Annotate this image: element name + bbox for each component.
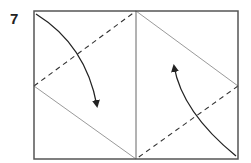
left-fold-arrow-icon (36, 14, 97, 106)
valley-fold-right (136, 86, 238, 159)
valley-fold-left (34, 11, 136, 86)
right-fold-arrow-icon (174, 66, 236, 156)
origami-diagram (0, 0, 251, 163)
crease-right-upper (136, 11, 238, 86)
crease-left-lower (34, 86, 136, 159)
